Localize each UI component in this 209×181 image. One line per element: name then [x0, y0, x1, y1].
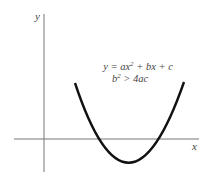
x-axis-label: x — [192, 140, 197, 152]
diagram-canvas — [0, 0, 209, 181]
y-axis-label: y — [35, 10, 40, 22]
discriminant-suffix: > 4ac — [121, 73, 149, 84]
equation-line-2: b2 > 4ac — [70, 73, 190, 84]
equation-prefix: y = ax — [103, 61, 130, 72]
equation-line-1: y = ax2 + bx + c — [78, 61, 198, 72]
parabola-curve — [75, 82, 184, 163]
equation-suffix: + bx + c — [134, 61, 173, 72]
